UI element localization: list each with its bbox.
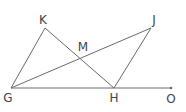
label-m: M	[78, 40, 88, 54]
geometry-diagram: K J M G H O	[0, 0, 186, 112]
label-g: G	[3, 91, 12, 105]
label-j: J	[151, 13, 156, 27]
segment-kh	[45, 28, 114, 88]
segment-jh	[114, 28, 151, 88]
segment-gj	[11, 28, 151, 88]
segment-gk	[11, 28, 45, 88]
label-o: O	[166, 92, 175, 106]
label-k: K	[39, 13, 48, 27]
point-o-dot	[170, 87, 173, 90]
label-h: H	[109, 91, 118, 105]
